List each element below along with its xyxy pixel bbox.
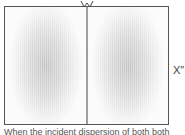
dispersion-pattern bbox=[87, 7, 169, 124]
left-pattern-panel bbox=[5, 7, 87, 124]
figure-caption: When the incident dispersion of both bot… bbox=[4, 127, 170, 135]
center-divider bbox=[86, 7, 87, 124]
right-pattern-panel bbox=[87, 7, 169, 124]
dispersion-pattern bbox=[5, 7, 87, 124]
figure-frame bbox=[4, 6, 169, 125]
axis-label: X″ bbox=[173, 64, 184, 76]
top-marker-icon bbox=[80, 0, 94, 8]
